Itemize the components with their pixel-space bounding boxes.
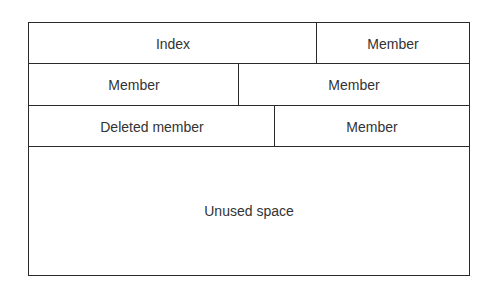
block-label: Index (156, 36, 190, 52)
block-label: Member (108, 77, 159, 93)
unused-space-block: Unused space (28, 146, 470, 276)
block-label: Member (328, 77, 379, 93)
member-block: Member (274, 105, 470, 148)
block-label: Member (346, 119, 397, 135)
block-label: Member (367, 36, 418, 52)
member-block: Member (238, 63, 470, 107)
member-block: Member (28, 63, 240, 107)
index-block: Index (28, 22, 318, 65)
deleted-member-block: Deleted member (28, 105, 276, 148)
member-block: Member (316, 22, 470, 65)
block-label: Unused space (204, 203, 294, 219)
block-label: Deleted member (100, 119, 204, 135)
